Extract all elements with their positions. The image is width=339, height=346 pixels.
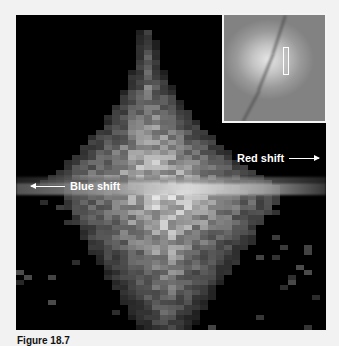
spectrum-pixel — [152, 105, 160, 110]
spectrum-pixel — [192, 205, 200, 210]
spectrum-pixel — [80, 150, 88, 155]
spectrum-pixel — [144, 280, 152, 285]
spectrum-pixel — [160, 285, 168, 290]
spectrum-pixel — [184, 300, 192, 305]
spectrum-pixel — [104, 220, 112, 225]
spectrum-pixel — [168, 235, 176, 240]
spectrum-pixel — [120, 205, 128, 210]
spectrum-pixel — [208, 135, 216, 140]
spectrum-pixel — [160, 100, 168, 105]
spectrum-pixel — [136, 135, 144, 140]
spectrum-pixel — [232, 165, 240, 170]
spectrum-pixel — [136, 120, 144, 125]
spectrum-pixel — [136, 300, 144, 305]
dust-lane — [257, 53, 275, 91]
spectrum-pixel — [208, 195, 216, 200]
arrow-left-icon — [31, 186, 65, 187]
spectrum-pixel — [144, 85, 152, 90]
spectrum-pixel — [136, 150, 144, 155]
spectrum-pixel — [136, 200, 144, 205]
spectrum-pixel — [136, 130, 144, 135]
spectrum-pixel — [144, 300, 152, 305]
spectrum-pixel — [104, 170, 112, 175]
spectrum-pixel — [144, 60, 152, 65]
spectrum-pixel — [184, 120, 192, 125]
spectrum-pixel — [224, 250, 232, 255]
spectrum-pixel — [120, 265, 128, 270]
spectrum-pixel — [72, 200, 80, 205]
spectrum-pixel — [144, 290, 152, 295]
spectrum-pixel — [184, 145, 192, 150]
spectrum-pixel — [176, 310, 184, 315]
spectrum-pixel — [120, 255, 128, 260]
spectrum-pixel — [152, 220, 160, 225]
spectrum-pixel — [72, 220, 80, 225]
spectrum-pixel — [136, 230, 144, 235]
spectrum-pixel — [128, 285, 136, 290]
spectrum-pixel — [200, 305, 208, 310]
spectrum-pixel — [112, 125, 120, 130]
spectrum-pixel — [152, 135, 160, 140]
spectrum-pixel — [272, 200, 280, 205]
spectrum-pixel — [232, 255, 240, 260]
spectrum-pixel — [128, 280, 136, 285]
spectrum-pixel — [200, 205, 208, 210]
spectrum-pixel — [168, 170, 176, 175]
spectrum-pixel — [200, 260, 208, 265]
spectrum-pixel — [168, 215, 176, 220]
spectrum-pixel — [88, 250, 96, 255]
spectrum-pixel — [192, 215, 200, 220]
spectrum-pixel — [224, 245, 232, 250]
spectrum-pixel — [240, 210, 248, 215]
spectrum-pixel — [176, 230, 184, 235]
spectrum-pixel — [304, 245, 312, 250]
arrow-right-icon — [289, 158, 319, 159]
spectrum-pixel — [168, 265, 176, 270]
spectrum-pixel — [128, 265, 136, 270]
spectrum-pixel — [168, 150, 176, 155]
spectrum-pixel — [120, 100, 128, 105]
spectrum-pixel — [232, 250, 240, 255]
spectrum-pixel — [128, 220, 136, 225]
spectrum-pixel — [104, 235, 112, 240]
spectrum-pixel — [144, 255, 152, 260]
spectrum-pixel — [136, 325, 144, 330]
spectrum-pixel — [248, 200, 256, 205]
spectrum-pixel — [208, 255, 216, 260]
spectrum-pixel — [152, 280, 160, 285]
spectrum-pixel — [88, 200, 96, 205]
spectrum-pixel — [144, 315, 152, 320]
spectrum-pixel — [96, 215, 104, 220]
spectrum-pixel — [152, 275, 160, 280]
spectrum-pixel — [168, 95, 176, 100]
spectrum-pixel — [144, 270, 152, 275]
spectrum-pixel — [248, 240, 256, 245]
spectrum-pixel — [56, 170, 64, 175]
spectrum-pixel — [152, 115, 160, 120]
spectrum-pixel — [160, 325, 168, 330]
spectrum-pixel — [128, 75, 136, 80]
spectrum-pixel — [184, 155, 192, 160]
spectrum-pixel — [176, 200, 184, 205]
spectrum-pixel — [224, 265, 232, 270]
spectrum-pixel — [80, 205, 88, 210]
spectrum-pixel — [160, 260, 168, 265]
spectrum-pixel — [104, 255, 112, 260]
spectrum-pixel — [128, 160, 136, 165]
spectrum-pixel — [136, 275, 144, 280]
spectrum-pixel — [176, 245, 184, 250]
spectrum-pixel — [152, 240, 160, 245]
spectrum-pixel — [160, 290, 168, 295]
spectrum-pixel — [176, 150, 184, 155]
spectrum-pixel — [88, 135, 96, 140]
spectrum-pixel — [208, 290, 216, 295]
spectrum-pixel — [24, 275, 32, 280]
spectrum-pixel — [168, 275, 176, 280]
spectrum-pixel — [176, 235, 184, 240]
spectrum-pixel — [168, 85, 176, 90]
spectrum-pixel — [136, 105, 144, 110]
spectrum-pixel — [168, 270, 176, 275]
spectrum-pixel — [128, 235, 136, 240]
spectrum-pixel — [128, 305, 136, 310]
spectrum-pixel — [184, 255, 192, 260]
